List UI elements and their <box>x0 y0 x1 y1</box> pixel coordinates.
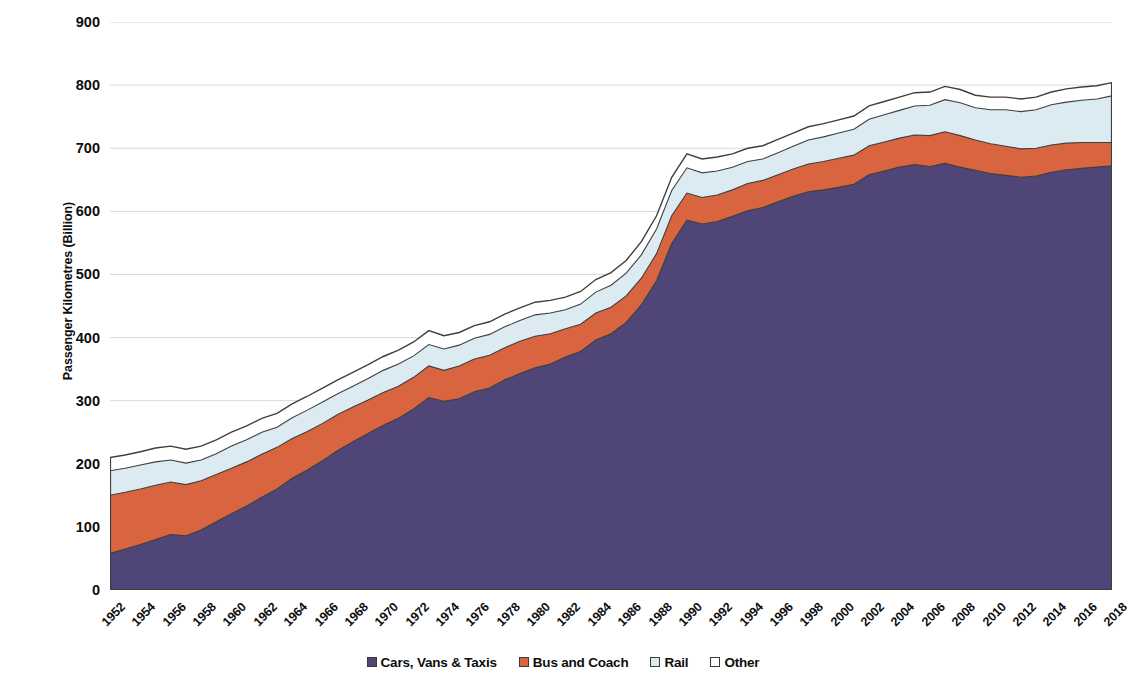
area-series-group <box>110 83 1112 590</box>
y-tick-label: 100 <box>46 519 100 535</box>
x-tick-label: 1956 <box>160 600 189 629</box>
y-tick-label: 700 <box>46 140 100 156</box>
x-tick-label: 1996 <box>767 600 796 629</box>
x-tick-label: 1960 <box>220 600 249 629</box>
plot-area <box>110 22 1112 590</box>
y-axis-tick-labels: 0100200300400500600700800900 <box>30 0 100 676</box>
x-tick-label: 2000 <box>828 600 857 629</box>
x-axis-tick-labels: 1952195419561958196019621964196619681970… <box>0 596 1126 652</box>
legend-swatch-icon <box>710 657 720 667</box>
legend-swatch-icon <box>367 657 377 667</box>
legend-label: Other <box>724 655 759 670</box>
x-tick-label: 1966 <box>311 600 340 629</box>
legend-label: Bus and Coach <box>533 655 629 670</box>
x-tick-label: 1984 <box>585 600 614 629</box>
x-tick-label: 2008 <box>949 600 978 629</box>
legend-item[interactable]: Cars, Vans & Taxis <box>367 655 497 670</box>
chart-legend: Cars, Vans & TaxisBus and CoachRailOther <box>0 650 1126 674</box>
x-tick-label: 1972 <box>403 600 432 629</box>
plot-svg <box>110 22 1112 590</box>
y-tick-label: 400 <box>46 330 100 346</box>
x-tick-label: 2002 <box>858 600 887 629</box>
x-tick-label: 1976 <box>463 600 492 629</box>
x-tick-label: 1982 <box>554 600 583 629</box>
y-tick-label: 200 <box>46 456 100 472</box>
x-tick-label: 1974 <box>433 600 462 629</box>
y-tick-label: 600 <box>46 203 100 219</box>
x-tick-label: 1952 <box>99 600 128 629</box>
x-tick-label: 1958 <box>190 600 219 629</box>
y-tick-label: 300 <box>46 393 100 409</box>
x-tick-label: 1990 <box>676 600 705 629</box>
x-tick-label: 2006 <box>919 600 948 629</box>
legend-swatch-icon <box>519 657 529 667</box>
x-tick-label: 2018 <box>1101 600 1130 629</box>
legend-item[interactable]: Rail <box>650 655 688 670</box>
y-tick-label: 800 <box>46 77 100 93</box>
legend-swatch-icon <box>650 657 660 667</box>
x-tick-label: 2004 <box>888 600 917 629</box>
legend-label: Cars, Vans & Taxis <box>381 655 497 670</box>
y-tick-label: 500 <box>46 266 100 282</box>
x-tick-label: 2010 <box>979 600 1008 629</box>
x-tick-label: 1970 <box>372 600 401 629</box>
x-tick-label: 1968 <box>342 600 371 629</box>
x-tick-label: 1994 <box>737 600 766 629</box>
x-tick-label: 1964 <box>281 600 310 629</box>
legend-label: Rail <box>664 655 688 670</box>
x-tick-label: 2012 <box>1010 600 1039 629</box>
x-tick-label: 2016 <box>1071 600 1100 629</box>
legend-item[interactable]: Other <box>710 655 759 670</box>
x-tick-label: 1986 <box>615 600 644 629</box>
x-tick-label: 1978 <box>494 600 523 629</box>
x-tick-label: 1962 <box>251 600 280 629</box>
x-tick-label: 1954 <box>129 600 158 629</box>
x-tick-label: 1980 <box>524 600 553 629</box>
x-tick-label: 1992 <box>706 600 735 629</box>
y-tick-label: 900 <box>46 14 100 30</box>
area-series <box>110 163 1112 590</box>
x-tick-label: 2014 <box>1040 600 1069 629</box>
x-tick-label: 1988 <box>645 600 674 629</box>
legend-item[interactable]: Bus and Coach <box>519 655 629 670</box>
x-tick-label: 1998 <box>797 600 826 629</box>
